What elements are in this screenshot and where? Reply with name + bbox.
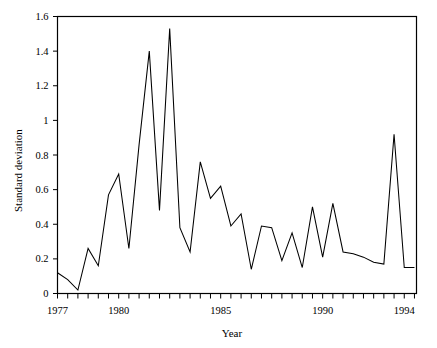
y-axis-tick-label: 0.4 <box>35 219 49 230</box>
y-axis-tick-label: 1.4 <box>35 46 49 57</box>
x-axis-tick-label: 1985 <box>210 305 231 316</box>
x-axis-title: Year <box>222 327 243 339</box>
x-axis-tick-mark-group <box>58 294 415 299</box>
x-axis-tick-label: 1990 <box>312 305 333 316</box>
y-axis-tick-label: 1.2 <box>35 80 48 91</box>
chart-svg: 00.20.40.60.811.21.41.6 1977198019851990… <box>0 0 437 348</box>
y-axis-tick-label: 0 <box>43 288 48 299</box>
y-axis-tick-label-group: 00.20.40.60.811.21.41.6 <box>35 11 49 299</box>
x-axis-tick-label-group: 19771980198519901994 <box>47 305 416 316</box>
y-axis-tick-label: 0.6 <box>35 184 48 195</box>
y-axis-tick-label: 1 <box>43 115 48 126</box>
data-series-line <box>58 29 415 290</box>
x-axis-tick-label: 1980 <box>108 305 129 316</box>
y-axis-title: Standard deviation <box>12 129 24 212</box>
y-axis-tick-label: 0.2 <box>35 253 48 264</box>
x-axis-tick-label: 1977 <box>47 305 68 316</box>
plot-frame <box>58 17 417 294</box>
y-axis-tick-mark-group <box>53 17 58 294</box>
x-axis-tick-label: 1994 <box>394 305 416 316</box>
chart-container: 00.20.40.60.811.21.41.6 1977198019851990… <box>0 0 437 348</box>
y-axis-tick-label: 1.6 <box>35 11 48 22</box>
y-axis-tick-label: 0.8 <box>35 150 48 161</box>
